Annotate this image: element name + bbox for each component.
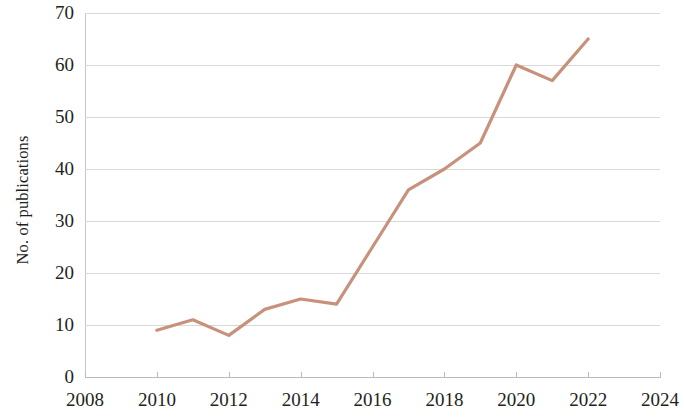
x-axis-tick-label: 2008 (50, 390, 120, 410)
x-axis-tick-mark (301, 372, 302, 378)
x-axis-tick-label: 2024 (625, 390, 684, 410)
x-axis-tick-mark (444, 372, 445, 378)
x-axis-tick-mark (373, 372, 374, 378)
x-axis-tick-mark (85, 372, 86, 378)
x-axis-tick-mark (516, 372, 517, 378)
x-axis-tick-label: 2010 (122, 390, 192, 410)
x-axis-tick-mark (588, 372, 589, 378)
x-axis-tick-label: 2018 (409, 390, 479, 410)
x-axis-tick-mark (157, 372, 158, 378)
x-axis-tick-mark (229, 372, 230, 378)
x-axis-tick-label: 2022 (553, 390, 623, 410)
x-axis-tick-mark (660, 372, 661, 378)
x-axis-tick-label: 2012 (194, 390, 264, 410)
x-axis-tick-label: 2014 (266, 390, 336, 410)
x-axis-tick-label: 2020 (481, 390, 551, 410)
x-axis-tick-label: 2016 (338, 390, 408, 410)
